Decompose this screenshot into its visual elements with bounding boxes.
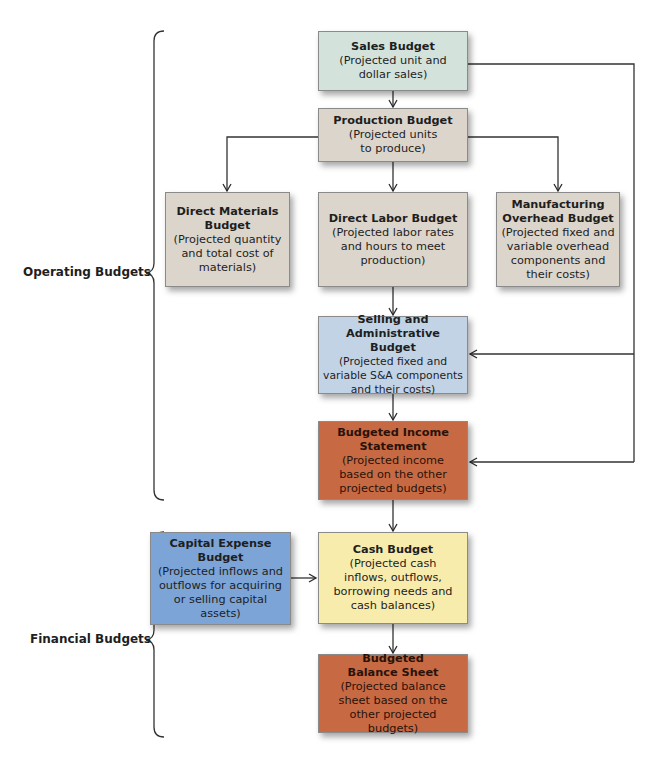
box-title: Capital Expense Budget bbox=[155, 537, 286, 565]
box-desc: (Projected unit and dollar sales) bbox=[323, 54, 463, 82]
box-title: Budgeted Income Statement bbox=[323, 426, 463, 454]
capital-expense-budget-box: Capital Expense Budget (Projected inflow… bbox=[150, 532, 291, 625]
budgeted-balance-sheet-box: Budgeted Balance Sheet (Projected balanc… bbox=[318, 654, 468, 733]
direct-labor-budget-box: Direct Labor Budget (Projected labor rat… bbox=[318, 192, 468, 287]
manufacturing-overhead-budget-box: Manufacturing Overhead Budget (Projected… bbox=[496, 192, 620, 287]
budgeted-income-statement-box: Budgeted Income Statement (Projected inc… bbox=[318, 421, 468, 500]
box-title: Cash Budget bbox=[353, 543, 434, 557]
selling-admin-budget-box: Selling and Administrative Budget (Proje… bbox=[318, 316, 468, 394]
box-title: Manufacturing Overhead Budget bbox=[501, 198, 615, 226]
box-desc: (Projected units to produce) bbox=[323, 128, 463, 156]
box-title: Budgeted Balance Sheet bbox=[323, 652, 463, 680]
box-desc: (Projected cash inflows, outflows, borro… bbox=[323, 557, 463, 613]
box-title: Sales Budget bbox=[351, 40, 435, 54]
box-desc: (Projected inflows and outflows for acqu… bbox=[155, 565, 286, 621]
box-desc: (Projected fixed and variable S&A compon… bbox=[323, 355, 463, 397]
box-title: Direct Labor Budget bbox=[329, 212, 458, 226]
box-desc: (Projected balance sheet based on the ot… bbox=[323, 680, 463, 736]
financial-budgets-label: Financial Budgets bbox=[30, 632, 151, 646]
box-title: Selling and Administrative Budget bbox=[323, 313, 463, 355]
box-title: Production Budget bbox=[333, 114, 452, 128]
box-title: Direct Materials Budget bbox=[170, 205, 285, 233]
production-budget-box: Production Budget (Projected units to pr… bbox=[318, 108, 468, 162]
box-desc: (Projected income based on the other pro… bbox=[323, 454, 463, 496]
sales-budget-box: Sales Budget (Projected unit and dollar … bbox=[318, 31, 468, 91]
box-desc: (Projected fixed and variable overhead c… bbox=[501, 226, 615, 282]
direct-materials-budget-box: Direct Materials Budget (Projected quant… bbox=[165, 192, 290, 287]
operating-budgets-label: Operating Budgets bbox=[23, 265, 151, 279]
cash-budget-box: Cash Budget (Projected cash inflows, out… bbox=[318, 532, 468, 624]
box-desc: (Projected quantity and total cost of ma… bbox=[170, 233, 285, 275]
box-desc: (Projected labor rates and hours to meet… bbox=[323, 226, 463, 268]
